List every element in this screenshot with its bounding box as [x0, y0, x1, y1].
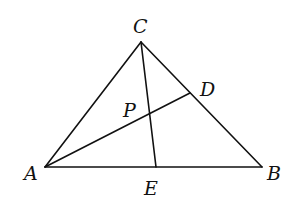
label-e: E: [143, 177, 158, 199]
label-c: C: [133, 15, 148, 37]
label-a: A: [22, 162, 38, 184]
label-b: B: [266, 162, 281, 184]
triangle-diagram: C A B D P E: [0, 0, 303, 202]
segment-bc: [141, 42, 262, 167]
label-d: D: [199, 78, 215, 100]
segment-ad: [45, 93, 190, 167]
segment-ce: [141, 42, 156, 167]
label-p: P: [122, 99, 137, 121]
